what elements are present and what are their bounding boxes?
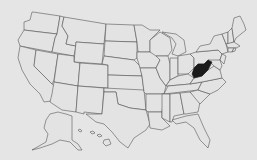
state-colorado: Colorado <box>78 63 108 88</box>
state-alaska: Alaska <box>32 112 82 150</box>
state-ohio: Ohio <box>178 54 194 74</box>
state-florida: Florida <box>172 114 210 148</box>
state-mississippi: Mississippi <box>162 94 170 122</box>
state-new-mexico: New Mexico <box>76 86 104 114</box>
us-map-svg: WashingtonOregonCaliforniaIdahoNevadaMon… <box>0 0 257 160</box>
state-wyoming: Wyoming <box>74 42 104 64</box>
state-maine: Maine <box>232 16 246 42</box>
state-arkansas: Arkansas <box>146 94 164 112</box>
us-map: WashingtonOregonCaliforniaIdahoNevadaMon… <box>0 0 257 160</box>
state-north-dakota: North Dakota <box>105 24 137 42</box>
state-arizona: Arizona <box>50 82 78 112</box>
state-hawaii: Hawaii <box>78 129 111 146</box>
state-montana: Montana <box>62 17 106 46</box>
state-nebraska: Nebraska <box>102 56 142 76</box>
